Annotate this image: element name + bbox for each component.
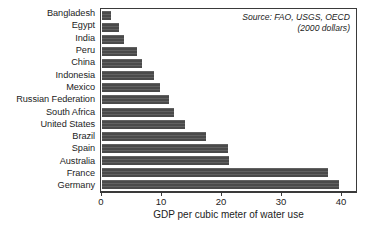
bar-row [102, 59, 355, 68]
bar [102, 47, 137, 56]
bar [102, 156, 229, 165]
bar [102, 59, 142, 68]
category-label: Russian Federation [0, 94, 98, 106]
bar [102, 144, 228, 153]
bar [102, 132, 206, 141]
x-tick-label: 40 [336, 196, 347, 207]
bar [102, 71, 154, 80]
bar [102, 120, 185, 129]
category-label: Spain [0, 143, 98, 155]
category-label: Mexico [0, 82, 98, 94]
category-label: Australia [0, 156, 98, 168]
bar-row [102, 108, 355, 117]
bar-row [102, 47, 355, 56]
category-label: United States [0, 119, 98, 131]
bar-row [102, 95, 355, 104]
bar-row [102, 11, 355, 20]
x-tick-label: 20 [216, 196, 227, 207]
category-label: China [0, 57, 98, 69]
bar [102, 168, 328, 177]
bar-row [102, 180, 355, 189]
category-axis-labels: Bangladesh Egypt India Peru China Indone… [0, 8, 98, 192]
category-label: Germany [0, 180, 98, 192]
x-tick-label: 30 [276, 196, 287, 207]
x-axis-title: GDP per cubic meter of water use [100, 209, 357, 220]
figure: Bangladesh Egypt India Peru China Indone… [0, 0, 368, 232]
category-label: Brazil [0, 131, 98, 143]
category-label: France [0, 168, 98, 180]
bar [102, 180, 339, 189]
bar-series [102, 10, 355, 190]
bar-row [102, 23, 355, 32]
bar [102, 83, 160, 92]
bar [102, 95, 169, 104]
bar-row [102, 71, 355, 80]
bar-row [102, 132, 355, 141]
bar-row [102, 168, 355, 177]
bar-row [102, 144, 355, 153]
bar-row [102, 156, 355, 165]
x-axis-line [100, 192, 357, 193]
bar [102, 23, 119, 32]
plot-area: Source: FAO, USGS, OECD (2000 dollars) [100, 8, 357, 192]
bar [102, 108, 174, 117]
category-label: Egypt [0, 20, 98, 32]
category-label: Bangladesh [0, 8, 98, 20]
category-label: Indonesia [0, 70, 98, 82]
bar-row [102, 35, 355, 44]
figure-caption [0, 226, 368, 232]
bar-row [102, 83, 355, 92]
category-label: Peru [0, 45, 98, 57]
category-label: South Africa [0, 107, 98, 119]
x-tick-label: 10 [156, 196, 167, 207]
bar-row [102, 120, 355, 129]
x-tick-label: 0 [98, 196, 103, 207]
category-label: India [0, 33, 98, 45]
bar [102, 11, 111, 20]
bar [102, 35, 124, 44]
